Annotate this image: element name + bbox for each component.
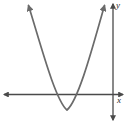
x-axis-label: x [117, 96, 121, 105]
y-axis-label: y [116, 1, 120, 10]
parabola-graph-figure: y x [0, 0, 125, 125]
graph-canvas [0, 0, 125, 125]
